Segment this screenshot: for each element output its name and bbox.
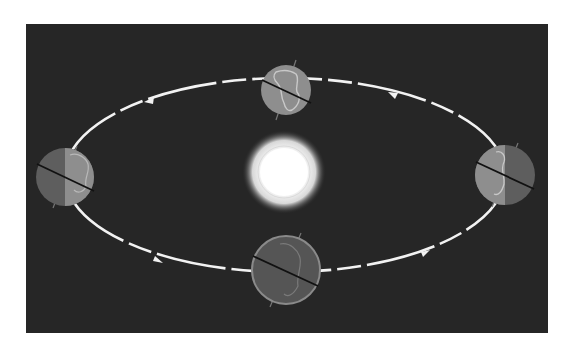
sun-core [260,148,308,196]
earth-orbit-diagram [0,0,573,356]
sun [242,130,326,214]
